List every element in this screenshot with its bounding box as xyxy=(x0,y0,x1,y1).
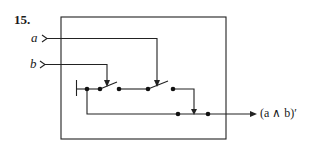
junction-dot xyxy=(98,87,103,92)
junction-dot xyxy=(206,112,211,117)
wire-a xyxy=(47,39,157,82)
wire-b xyxy=(45,65,107,82)
junction-dot xyxy=(117,87,122,92)
junction-dot xyxy=(171,87,176,92)
junction-dot xyxy=(176,112,181,117)
circuit-diagram xyxy=(0,0,309,147)
return-wire xyxy=(87,89,252,114)
junction-dot xyxy=(146,87,151,92)
input-a-chevron-icon xyxy=(42,35,47,42)
output-arrow-icon xyxy=(250,111,257,117)
input-b-chevron-icon xyxy=(40,61,45,68)
junction-dot xyxy=(85,87,90,92)
arrow-b-icon xyxy=(104,80,110,87)
enclosure-box xyxy=(61,17,226,139)
